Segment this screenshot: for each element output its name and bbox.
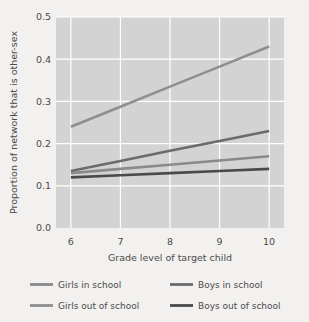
legend-label: Girls in school bbox=[58, 280, 121, 290]
x-tick-label: 10 bbox=[263, 236, 275, 247]
y-tick-label: 0.5 bbox=[36, 11, 51, 22]
chart-figure: 0.00.10.20.30.40.5 678910 Proportion of … bbox=[0, 0, 309, 322]
y-tick-label: 0.0 bbox=[36, 222, 51, 233]
x-axis-title: Grade level of target child bbox=[108, 252, 232, 263]
x-tick-label: 8 bbox=[167, 236, 173, 247]
x-tick-label: 6 bbox=[68, 236, 74, 247]
y-tick-label: 0.1 bbox=[36, 180, 51, 191]
legend-label: Boys out of school bbox=[198, 301, 281, 311]
y-tick-label: 0.2 bbox=[36, 138, 51, 149]
legend-label: Girls out of school bbox=[58, 301, 139, 311]
x-tick-label: 9 bbox=[217, 236, 223, 247]
y-tick-label: 0.4 bbox=[36, 54, 51, 65]
line-chart-svg: 0.00.10.20.30.40.5 678910 Proportion of … bbox=[0, 0, 309, 322]
y-tick-label: 0.3 bbox=[36, 96, 51, 107]
y-axis-title: Proportion of network that is other-sex bbox=[8, 31, 19, 214]
x-tick-label: 7 bbox=[117, 236, 123, 247]
legend-label: Boys in school bbox=[198, 280, 262, 290]
